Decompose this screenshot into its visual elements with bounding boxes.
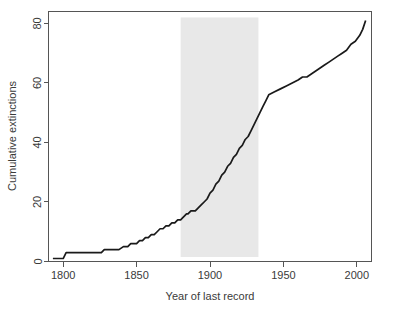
x-tick-label: 1800 xyxy=(51,269,75,281)
y-tick-label: 20 xyxy=(32,196,44,208)
y-axis-title: Cumulative extinctions xyxy=(6,80,18,191)
x-tick-label: 1900 xyxy=(198,269,222,281)
y-tick-label: 60 xyxy=(32,77,44,89)
y-tick-label: 40 xyxy=(32,136,44,148)
y-tick-label: 0 xyxy=(32,258,44,264)
x-tick-label: 1950 xyxy=(271,269,295,281)
x-tick-label: 2000 xyxy=(345,269,369,281)
cumulative-extinctions-chart: 020406080 18001850190019502000 Year of l… xyxy=(0,0,395,311)
x-axis-title: Year of last record xyxy=(166,290,255,302)
x-tick-label: 1850 xyxy=(124,269,148,281)
chart-page: 020406080 18001850190019502000 Year of l… xyxy=(0,0,395,311)
y-tick-label: 80 xyxy=(32,17,44,29)
